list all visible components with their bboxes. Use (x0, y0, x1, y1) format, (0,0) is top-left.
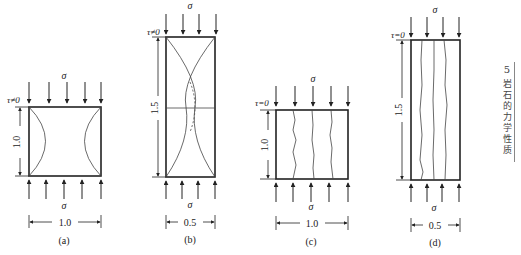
fracture-arc-left (29, 107, 46, 176)
compression-arrows-bottom (411, 184, 459, 202)
caption-a: (a) (58, 235, 69, 247)
compression-arrows-bottom (166, 181, 215, 199)
sigma-bottom-label: σ (432, 202, 438, 213)
fracture-cones (166, 37, 215, 177)
specimen-rect (411, 40, 460, 180)
width-label: 0.5 (184, 217, 197, 228)
compression-arrows-bottom (29, 180, 101, 199)
height-label: 1.0 (259, 139, 270, 152)
fracture-arc-right (85, 107, 102, 176)
caption-b: (b) (184, 234, 196, 246)
compression-arrows-top (276, 86, 348, 106)
splitting-cracks (293, 110, 333, 179)
panel-d: σ τ=0 1.5 σ (391, 4, 460, 249)
chapter-title: 岩石的力学性质 (503, 79, 512, 155)
sigma-top-label: σ (188, 0, 194, 11)
height-label: 1.5 (393, 104, 404, 117)
chapter-side-tab: 5 岩石的力学性质 (500, 64, 514, 156)
compression-arrows-top (166, 14, 216, 34)
panel-a: σ τ≠0 1.0 σ (7, 70, 101, 247)
splitting-cracks (420, 40, 447, 180)
sigma-bottom-label: σ (62, 200, 68, 211)
compression-arrows-bottom (276, 183, 348, 202)
panel-c: σ τ=0 1.0 σ (255, 73, 348, 248)
figure-canvas: σ τ≠0 1.0 σ (0, 0, 521, 255)
height-label: 1.0 (11, 136, 22, 149)
sigma-bottom-label: σ (188, 199, 194, 210)
shear-label: τ≠0 (147, 27, 160, 37)
shear-label: τ=0 (255, 98, 269, 108)
width-label: 0.5 (429, 220, 442, 231)
sigma-top-label: σ (433, 4, 439, 15)
side-tab-divider (514, 62, 515, 162)
width-label: 1.0 (306, 218, 319, 229)
shear-label: τ=0 (391, 30, 405, 40)
chapter-number: 5 (500, 64, 514, 75)
height-label: 1.5 (149, 102, 160, 115)
caption-d: (d) (429, 237, 441, 249)
panel-b: σ τ≠0 1.5 σ (147, 0, 216, 246)
caption-c: (c) (305, 236, 316, 248)
sigma-bottom-label: σ (309, 201, 315, 212)
specimen-rect (29, 107, 101, 176)
compression-arrows-top (411, 17, 459, 37)
compression-arrows-top (29, 82, 101, 103)
specimen-rect (166, 37, 215, 177)
specimen-rect (276, 110, 348, 179)
sigma-top-label: σ (311, 73, 317, 84)
width-label: 1.0 (59, 217, 72, 228)
sigma-top-label: σ (62, 70, 68, 81)
shear-label: τ≠0 (7, 95, 20, 105)
